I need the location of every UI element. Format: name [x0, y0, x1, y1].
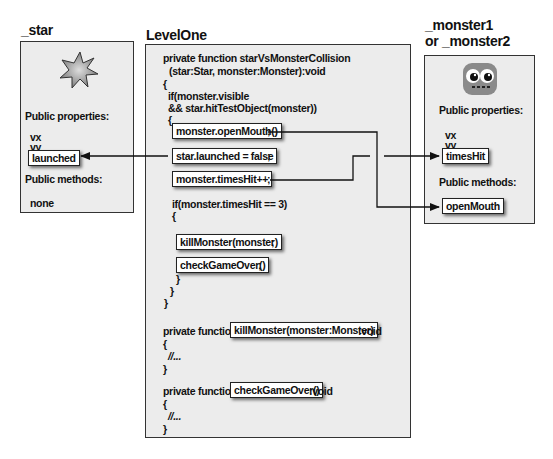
arrow-times-hit [270, 156, 370, 180]
connector-wires [0, 0, 553, 459]
